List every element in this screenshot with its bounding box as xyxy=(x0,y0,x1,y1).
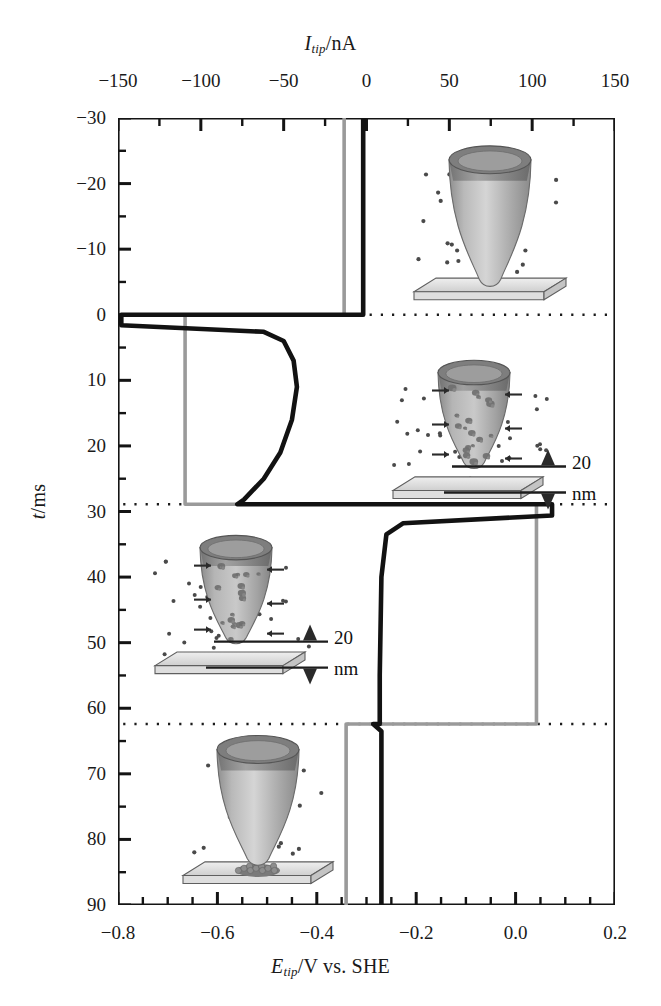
plot-svg: 20nm20nm xyxy=(118,118,615,905)
top-tick-label: 100 xyxy=(518,70,547,92)
gap-value-label: 20 xyxy=(572,452,591,473)
left-tick-label: 20 xyxy=(87,435,106,457)
gap-unit-label: nm xyxy=(572,483,597,504)
left-tick-label: −20 xyxy=(76,173,106,195)
top-tick-label: 150 xyxy=(601,70,630,92)
gap-value-label: 20 xyxy=(334,627,353,648)
illustration-tip-dissolving-upper: 20nm xyxy=(392,360,596,509)
top-tick-label: −50 xyxy=(269,70,299,92)
left-tick-label: −10 xyxy=(76,238,106,260)
bottom-tick-label: −0.4 xyxy=(300,922,334,944)
left-axis-title-symbol: t xyxy=(27,513,49,519)
figure-secm-transient: Itip/nA Etip/V vs. SHE t/ms −150−100−500… xyxy=(0,0,661,1006)
plot-area: 20nm20nm xyxy=(118,118,615,905)
top-tick-label: −100 xyxy=(181,70,220,92)
left-tick-label: 10 xyxy=(87,369,106,391)
left-tick-label: 0 xyxy=(97,304,107,326)
top-axis-title-unit: /nA xyxy=(326,32,357,54)
bottom-axis-title: Etip/V vs. SHE xyxy=(0,955,661,980)
left-axis-title: t/ms xyxy=(27,442,50,562)
top-tick-label: 0 xyxy=(362,70,372,92)
illustration-tip-clean-before xyxy=(414,146,566,300)
left-tick-label: 50 xyxy=(87,632,106,654)
left-tick-label: 70 xyxy=(87,763,106,785)
left-tick-label: 30 xyxy=(87,501,106,523)
top-axis-title: Itip/nA xyxy=(0,32,661,57)
left-tick-label: −30 xyxy=(76,107,106,129)
bottom-tick-label: 0.2 xyxy=(603,922,627,944)
left-tick-label: 60 xyxy=(87,697,106,719)
bottom-axis-title-symbol: E xyxy=(271,955,283,977)
left-axis-title-unit: /ms xyxy=(27,484,49,514)
bottom-tick-label: −0.8 xyxy=(101,922,135,944)
illustration-tip-dissolving-lower: 20nm xyxy=(153,535,359,684)
bottom-axis-title-subscript: tip xyxy=(283,964,297,979)
left-tick-label: 80 xyxy=(87,828,106,850)
illustration-tip-clean-after xyxy=(183,736,333,884)
top-tick-label: −150 xyxy=(98,70,137,92)
gap-unit-label: nm xyxy=(334,658,359,679)
left-tick-label: 40 xyxy=(87,566,106,588)
top-tick-label: 50 xyxy=(440,70,459,92)
bottom-tick-label: −0.2 xyxy=(399,922,433,944)
top-axis-title-subscript: tip xyxy=(311,41,325,56)
bottom-tick-label: 0.0 xyxy=(504,922,528,944)
bottom-tick-label: −0.6 xyxy=(200,922,234,944)
left-tick-label: 90 xyxy=(87,894,106,916)
axes-frame xyxy=(118,118,615,905)
bottom-axis-title-unit: /V vs. SHE xyxy=(298,955,390,977)
